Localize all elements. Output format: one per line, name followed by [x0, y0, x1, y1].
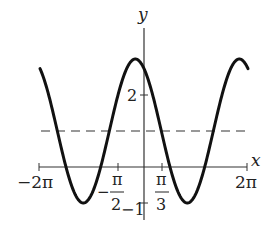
y-tick-label-2: 2: [127, 86, 137, 105]
x-tick-label-neg-pi2-den: 2: [111, 195, 121, 214]
y-axis-label: y: [137, 4, 148, 24]
x-tick-label-2pi: 2π: [235, 172, 257, 192]
x-axis-label: x: [251, 150, 261, 170]
chart-figure: y x −2π 2π − π 2 π 3 2 −1: [0, 0, 275, 230]
x-tick-label-pi3-den: 3: [156, 195, 166, 214]
x-tick-label-neg-pi2-sign: −: [97, 183, 110, 201]
x-tick-label-neg-2pi: −2π: [17, 172, 53, 192]
plot-area: y x −2π 2π − π 2 π 3 2 −1: [0, 0, 275, 230]
x-tick-label-neg-pi2-num: π: [112, 170, 123, 189]
y-tick-label-neg1: −1: [121, 200, 145, 219]
x-tick-label-pi3-num: π: [156, 170, 167, 189]
